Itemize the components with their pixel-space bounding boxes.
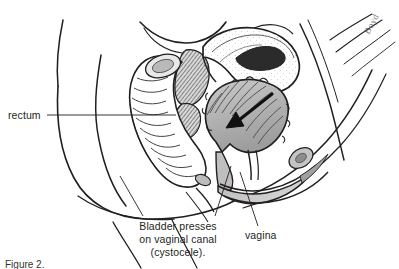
label-vagina: vagina [245,229,277,242]
label-cystocele-line-1: Bladder presses [117,220,239,233]
label-cystocele-line-2: on vaginal canal [117,233,239,246]
label-cystocele-line-3: (cystocele). [117,246,239,259]
bladder [202,77,290,193]
label-rectum: rectum [8,109,41,122]
vaginal-canal [218,154,328,204]
leader-cystocele-left [120,176,143,216]
anatomical-figure: rectum vagina Bladder presses on vaginal… [0,0,399,269]
figure-caption-cropped: Figure 2. [5,258,44,269]
label-cystocele: Bladder presses on vaginal canal (cystoc… [117,220,239,259]
